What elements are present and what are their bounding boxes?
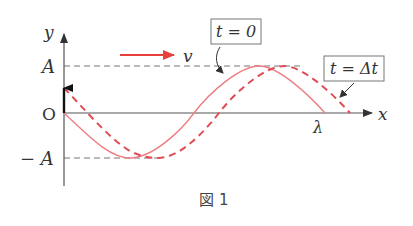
wavelength-label: λ	[312, 118, 323, 137]
velocity-label: v	[183, 46, 193, 66]
y-axis-label: y	[43, 22, 54, 42]
curve-label-t0: t = 0	[216, 22, 256, 41]
pointer-arrow-dt	[340, 83, 354, 97]
wave-curve-dt	[64, 66, 350, 158]
figure-caption: 図 1	[199, 191, 228, 209]
wave-curve-t0	[64, 66, 325, 158]
curve-label-dt: t = Δt	[330, 59, 379, 78]
amplitude-label: A	[40, 56, 55, 77]
neg-amplitude-label: − A	[20, 148, 54, 169]
x-axis-label: x	[378, 104, 388, 124]
pointer-arrow-t0	[216, 47, 223, 73]
wave-diagram: v y x A O − A λ t = 0 t = Δt 図 1	[0, 0, 413, 226]
origin-label: O	[42, 104, 56, 124]
